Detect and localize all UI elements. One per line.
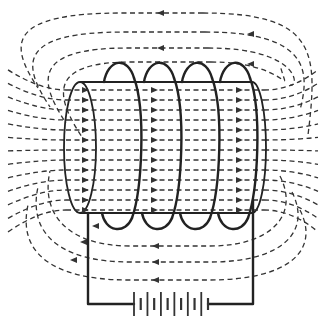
field-line-side-right: [264, 97, 318, 110]
field-arrow-icon: [82, 117, 89, 123]
field-line-side-left: [8, 150, 66, 151]
field-arrow-icon: [82, 167, 89, 173]
field-line-side-right: [264, 124, 318, 130]
field-arrow-icon: [236, 127, 243, 133]
field-arrow-icon: [236, 197, 243, 203]
field-line-side-right: [264, 190, 318, 205]
field-arrow-icon: [157, 10, 164, 16]
field-arrow-icon: [151, 177, 158, 183]
battery: [134, 292, 208, 316]
circuit-wire: [88, 200, 253, 304]
field-arrow-icon: [151, 127, 158, 133]
field-arrow-icon: [82, 107, 89, 113]
field-arrow-icon: [82, 177, 89, 183]
field-line-side-left: [8, 160, 66, 164]
field-arrow-icon: [82, 187, 89, 193]
field-arrow-icon: [151, 157, 158, 163]
field-arrow-icon: [80, 239, 87, 245]
field-line-side-right: [264, 180, 318, 191]
field-arrow-icon: [236, 107, 243, 113]
field-line-side-right: [264, 150, 318, 151]
field-arrow-icon: [82, 147, 89, 153]
solenoid-diagram: [0, 0, 325, 326]
wire-right: [208, 200, 253, 304]
field-arrow-icon: [152, 243, 159, 249]
cylinder-core: [64, 82, 266, 213]
field-arrow-icon: [82, 127, 89, 133]
field-arrow-icon: [82, 97, 89, 103]
field-arrow-icon: [151, 87, 158, 93]
field-arrow-icon: [152, 277, 159, 283]
field-arrow-icon: [151, 167, 158, 173]
field-arrow-icon: [151, 137, 158, 143]
field-arrow-icon: [236, 187, 243, 193]
field-arrow-icon: [236, 147, 243, 153]
field-arrow-icon: [151, 117, 158, 123]
field-arrow-icon: [151, 147, 158, 153]
field-line-side-left: [8, 170, 66, 178]
field-line-side-right: [264, 210, 318, 232]
field-arrow-icon: [152, 259, 159, 265]
field-arrow-icon: [82, 137, 89, 143]
field-arrow-icon: [151, 187, 158, 193]
field-arrow-icon: [236, 87, 243, 93]
field-line-side-right: [264, 137, 318, 140]
coil-loop-bottom: [102, 213, 132, 229]
coil-loop-top: [182, 63, 212, 82]
field-arrow-icon: [70, 257, 77, 263]
field-arrow-icon: [151, 197, 158, 203]
field-line-side-right: [264, 160, 318, 164]
field-line-outer-top: [21, 13, 312, 135]
coil-loop-front: [172, 78, 181, 218]
coil-loop-top: [144, 63, 174, 82]
cylinder-left-end: [64, 82, 96, 213]
coil-loop-front: [248, 78, 257, 218]
field-line-outer-top: [63, 62, 284, 137]
coil-loop-bottom: [142, 213, 172, 229]
interior-field-lines: [66, 87, 264, 213]
field-arrow-icon: [82, 157, 89, 163]
field-line-side-left: [8, 124, 66, 130]
field-line-side-right: [264, 83, 318, 100]
field-arrow-icon: [92, 223, 99, 229]
field-arrow-icon: [151, 107, 158, 113]
coil-loop-bottom: [218, 213, 248, 229]
field-arrow-icon: [157, 45, 164, 51]
field-line-side-left: [8, 137, 66, 140]
field-arrow-icon: [247, 31, 254, 37]
coil-loop-front: [210, 78, 219, 218]
field-arrow-icon: [236, 117, 243, 123]
coil-loop-front: [132, 78, 141, 218]
field-arrow-icon: [151, 97, 158, 103]
field-line-outer-bottom: [26, 205, 306, 280]
field-arrow-icon: [236, 97, 243, 103]
field-arrow-icon: [236, 157, 243, 163]
field-line-side-right: [264, 170, 318, 178]
coil-loop-bottom: [180, 213, 210, 229]
field-arrow-icon: [236, 177, 243, 183]
field-arrow-icon: [236, 167, 243, 173]
field-line-side-left: [8, 110, 66, 120]
field-arrow-icon: [236, 137, 243, 143]
coil-loop-top: [104, 63, 134, 82]
side-field-lines: [8, 70, 318, 232]
field-line-outer-top: [33, 32, 304, 110]
